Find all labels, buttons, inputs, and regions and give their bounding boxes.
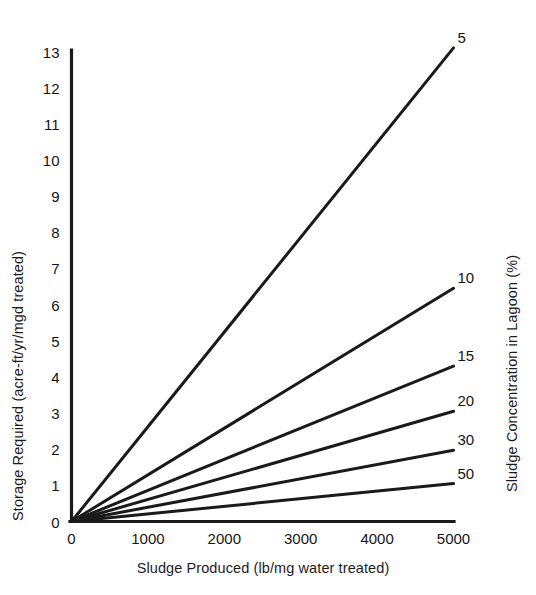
x-tick-label: 2000 bbox=[194, 530, 254, 547]
series-line-50 bbox=[72, 484, 454, 522]
x-tick-label: 3000 bbox=[271, 530, 331, 547]
y-tick-label: 4 bbox=[30, 368, 60, 385]
plot-area bbox=[0, 0, 536, 595]
series-label-30: 30 bbox=[458, 431, 475, 448]
series-label-15: 15 bbox=[458, 347, 475, 364]
x-tick-label: 4000 bbox=[347, 530, 407, 547]
y-tick-label: 9 bbox=[30, 188, 60, 205]
y-tick-label: 10 bbox=[30, 151, 60, 168]
series-lines bbox=[72, 48, 454, 522]
series-line-5 bbox=[72, 48, 454, 522]
y-tick-label: 8 bbox=[30, 224, 60, 241]
y-tick-label: 0 bbox=[30, 513, 60, 530]
y-tick-label: 13 bbox=[30, 43, 60, 60]
y-tick-label: 1 bbox=[30, 477, 60, 494]
series-line-15 bbox=[72, 366, 454, 521]
y-tick-label: 2 bbox=[30, 441, 60, 458]
y-tick-label: 6 bbox=[30, 296, 60, 313]
x-tick-label: 1000 bbox=[118, 530, 178, 547]
y-tick-label: 5 bbox=[30, 332, 60, 349]
y-tick-label: 11 bbox=[30, 115, 60, 132]
y-tick-label: 3 bbox=[30, 405, 60, 422]
series-line-20 bbox=[72, 411, 454, 521]
series-label-20: 20 bbox=[458, 392, 475, 409]
series-label-10: 10 bbox=[458, 269, 475, 286]
x-tick-label: 0 bbox=[42, 530, 102, 547]
x-tick-label: 5000 bbox=[424, 530, 484, 547]
sludge-storage-line-chart: Storage Required (acre-ft/yr/mgd treated… bbox=[0, 0, 536, 595]
y-tick-label: 12 bbox=[30, 79, 60, 96]
series-label-50: 50 bbox=[458, 464, 475, 481]
y-tick-label: 7 bbox=[30, 260, 60, 277]
series-label-5: 5 bbox=[458, 28, 466, 45]
